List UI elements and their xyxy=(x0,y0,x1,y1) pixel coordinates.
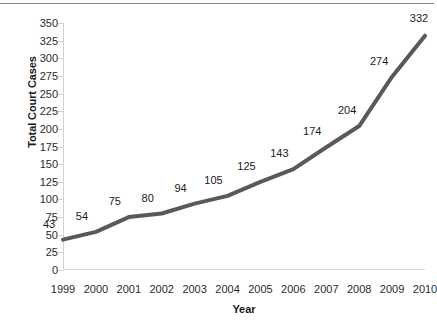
y-tick-label: 325 xyxy=(18,35,58,47)
x-tick-label: 2010 xyxy=(413,283,437,295)
y-tick-label: 175 xyxy=(18,141,58,153)
y-tick-label: 125 xyxy=(18,176,58,188)
y-tick-label: 225 xyxy=(18,105,58,117)
data-point-label: 204 xyxy=(338,104,356,116)
data-point-label: 80 xyxy=(142,192,154,204)
y-tick-mark xyxy=(58,252,63,253)
y-tick-mark xyxy=(58,58,63,59)
y-tick-mark xyxy=(58,147,63,148)
y-tick-mark xyxy=(58,235,63,236)
y-tick-label: 50 xyxy=(18,229,58,241)
data-point-label: 125 xyxy=(237,160,255,172)
data-point-label: 54 xyxy=(76,210,88,222)
data-point-label: 143 xyxy=(270,147,288,159)
y-tick-label: 300 xyxy=(18,52,58,64)
data-point-label: 105 xyxy=(204,174,222,186)
x-tick-label: 2005 xyxy=(248,283,272,295)
y-tick-mark xyxy=(58,23,63,24)
x-tick-label: 2009 xyxy=(380,283,404,295)
y-tick-mark xyxy=(58,164,63,165)
data-point-label: 332 xyxy=(410,12,428,24)
x-tick-label: 2000 xyxy=(84,283,108,295)
y-tick-mark xyxy=(58,111,63,112)
y-tick-mark xyxy=(58,129,63,130)
x-tick-label: 2004 xyxy=(215,283,239,295)
x-tick-label: 2006 xyxy=(281,283,305,295)
data-point-label: 174 xyxy=(303,125,321,137)
y-tick-label: 350 xyxy=(18,17,58,29)
y-tick-label: 25 xyxy=(18,246,58,258)
x-tick-label: 1999 xyxy=(51,283,75,295)
y-tick-label: 0 xyxy=(18,264,58,276)
x-tick-label: 2007 xyxy=(314,283,338,295)
x-tick-label: 2002 xyxy=(149,283,173,295)
y-tick-mark xyxy=(58,94,63,95)
y-tick-mark xyxy=(58,270,63,271)
y-tick-mark xyxy=(58,199,63,200)
y-tick-label: 150 xyxy=(18,158,58,170)
y-tick-label: 100 xyxy=(18,193,58,205)
y-tick-mark xyxy=(58,76,63,77)
y-tick-mark xyxy=(58,182,63,183)
y-tick-label: 250 xyxy=(18,88,58,100)
x-axis-tick-labels: 1999200020012002200320042005200620072008… xyxy=(63,283,425,299)
data-point-label: 43 xyxy=(43,218,55,230)
y-tick-mark xyxy=(58,217,63,218)
y-axis-tick-labels: 3503253002752502252001751501251007550250 xyxy=(18,23,58,270)
x-tick-label: 2003 xyxy=(182,283,206,295)
x-tick-label: 2001 xyxy=(117,283,141,295)
x-tick-label: 2008 xyxy=(347,283,371,295)
data-point-label: 274 xyxy=(370,55,388,67)
x-axis-title: Year xyxy=(63,303,425,315)
y-tick-label: 200 xyxy=(18,123,58,135)
y-tick-label: 275 xyxy=(18,70,58,82)
data-point-label: 94 xyxy=(175,182,187,194)
y-tick-mark xyxy=(58,41,63,42)
data-point-label: 75 xyxy=(109,195,121,207)
